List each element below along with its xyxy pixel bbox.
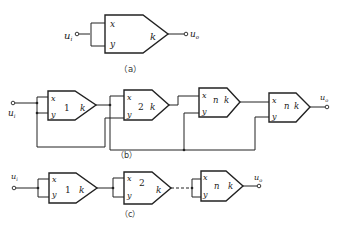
- block-index: 1: [64, 103, 70, 113]
- port-y-label: y: [271, 112, 277, 121]
- port-x-label: x: [203, 173, 208, 182]
- port-x-label: x: [110, 19, 115, 29]
- output-terminal-c: [257, 184, 261, 188]
- circuit-diagram: ui x y k uo （a） ui x y 1 k: [0, 0, 340, 233]
- output-label-c: uo: [254, 173, 262, 183]
- block-index: n: [213, 95, 218, 105]
- port-y-label: y: [201, 107, 207, 116]
- block-index: 2: [138, 102, 144, 112]
- subfigure-b: ui x y 1 k x y 2 k x y n: [8, 88, 329, 160]
- block-index: 1: [65, 185, 71, 195]
- gain-label: k: [150, 31, 156, 42]
- block-index: n: [214, 181, 219, 191]
- gain-label: k: [80, 103, 85, 113]
- port-x-label: x: [202, 91, 207, 100]
- output-label-b: uo: [320, 93, 328, 103]
- input-label-c: ui: [11, 172, 18, 182]
- gain-label: k: [294, 101, 299, 111]
- block-index: 2: [139, 178, 145, 188]
- caption-b: （b）: [116, 151, 137, 160]
- block-index: n: [284, 101, 289, 111]
- input-terminal-a: [75, 32, 79, 36]
- port-x-label: x: [127, 174, 132, 183]
- port-x-label: x: [127, 93, 132, 102]
- port-x-label: x: [52, 175, 57, 184]
- subfigure-a: ui x y k uo （a）: [64, 15, 200, 74]
- output-terminal-b: [325, 105, 329, 109]
- port-y-label: y: [126, 191, 132, 200]
- input-label-b: ui: [8, 108, 16, 119]
- gain-label: k: [156, 185, 161, 195]
- subfigure-c: ui x y 1 k x y 2 k x y n k uo （c: [11, 171, 262, 219]
- port-y-label: y: [109, 39, 116, 49]
- output-terminal-a: [184, 32, 188, 36]
- port-y-label: y: [126, 110, 132, 119]
- output-label-a: uo: [190, 29, 200, 40]
- gain-label: k: [150, 102, 155, 112]
- input-terminal-c: [12, 186, 16, 190]
- caption-c: （c）: [120, 210, 140, 219]
- caption-a: （a）: [119, 64, 142, 74]
- port-y-label: y: [202, 190, 208, 199]
- input-split-wire-a: [91, 23, 105, 46]
- gain-label: k: [79, 185, 84, 195]
- input-label-a: ui: [64, 30, 72, 42]
- port-x-label: x: [51, 94, 56, 103]
- gain-label: k: [228, 181, 233, 191]
- gain-label: k: [224, 95, 229, 105]
- input-terminal-b: [11, 101, 15, 105]
- port-y-label: y: [50, 110, 56, 119]
- port-x-label: x: [272, 96, 277, 105]
- port-y-label: y: [51, 190, 57, 199]
